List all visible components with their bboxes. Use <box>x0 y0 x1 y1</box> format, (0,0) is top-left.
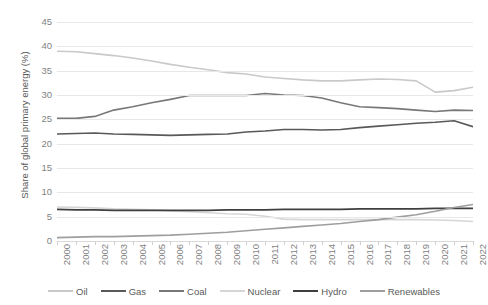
x-axis-tick <box>416 241 417 245</box>
x-axis-tick-label: 2000 <box>62 244 72 278</box>
gridline <box>57 144 473 145</box>
legend-label: Nuclear <box>248 286 281 297</box>
gridline <box>57 168 473 169</box>
gridline <box>57 71 473 72</box>
x-axis-tick <box>378 241 379 245</box>
x-axis-tick <box>227 241 228 245</box>
x-axis-tick-label: 2021 <box>459 244 469 278</box>
x-axis-tick-label: 2001 <box>81 244 91 278</box>
x-axis-tick-label: 2004 <box>138 244 148 278</box>
legend-label: Gas <box>129 286 146 297</box>
gridline <box>57 217 473 218</box>
legend-swatch-icon <box>293 290 318 292</box>
y-axis-tick-label: 45 <box>26 17 52 27</box>
x-axis-tick-label: 2009 <box>232 244 242 278</box>
y-axis-tick-label: 40 <box>26 41 52 51</box>
x-axis-tick <box>322 241 323 245</box>
legend-item-gas[interactable]: Gas <box>101 286 146 297</box>
x-axis-tick <box>189 241 190 245</box>
x-axis-tick <box>152 241 153 245</box>
y-axis-tick-label: 30 <box>26 90 52 100</box>
y-axis-tick-label: 15 <box>26 163 52 173</box>
y-axis-tick-label: 10 <box>26 187 52 197</box>
legend-item-oil[interactable]: Oil <box>48 286 88 297</box>
x-axis-tick <box>114 241 115 245</box>
x-axis-tick-label: 2008 <box>213 244 223 278</box>
x-axis-tick-label: 2013 <box>308 244 318 278</box>
legend-item-nuclear[interactable]: Nuclear <box>220 286 281 297</box>
legend-swatch-icon <box>48 290 73 292</box>
x-axis-tick-label: 2011 <box>270 244 280 278</box>
x-axis-tick <box>133 241 134 245</box>
x-axis-tick-label: 2007 <box>194 244 204 278</box>
legend-swatch-icon <box>220 290 245 292</box>
x-axis-tick <box>76 241 77 245</box>
x-axis-tick <box>303 241 304 245</box>
x-axis-tick <box>95 241 96 245</box>
x-axis-tick <box>435 241 436 245</box>
x-axis-tick-label: 2002 <box>100 244 110 278</box>
x-axis-tick <box>341 241 342 245</box>
legend-swatch-icon <box>360 290 385 292</box>
x-axis-tick-label: 2022 <box>478 244 488 278</box>
y-axis-tick-labels: 051015202530354045 <box>22 22 52 241</box>
x-axis-tick <box>397 241 398 245</box>
legend-label: Coal <box>187 286 207 297</box>
x-axis-tick-label: 2006 <box>175 244 185 278</box>
x-axis-tick-label: 2005 <box>157 244 167 278</box>
x-axis-tick-label: 2003 <box>119 244 129 278</box>
x-axis-tick <box>265 241 266 245</box>
legend-swatch-icon <box>101 290 126 292</box>
x-axis-tick <box>284 241 285 245</box>
plot-area <box>57 22 473 241</box>
x-axis-tick-label: 2016 <box>365 244 375 278</box>
y-axis-tick-label: 20 <box>26 139 52 149</box>
x-axis-tick <box>208 241 209 245</box>
legend-item-renewables[interactable]: Renewables <box>360 286 440 297</box>
x-axis-tick-labels: 2000200120022003200420052006200720082009… <box>57 246 473 280</box>
x-axis-tick-label: 2019 <box>421 244 431 278</box>
legend-label: Renewables <box>388 286 440 297</box>
y-axis-tick-label: 35 <box>26 66 52 76</box>
x-axis-tick <box>170 241 171 245</box>
x-axis-tick-label: 2014 <box>327 244 337 278</box>
series-line-coal <box>57 94 473 119</box>
x-axis-tick <box>246 241 247 245</box>
x-axis-tick-label: 2020 <box>440 244 450 278</box>
series-lines <box>57 22 473 241</box>
y-axis-tick-label: 0 <box>26 236 52 246</box>
x-axis-tick-label: 2018 <box>402 244 412 278</box>
gridline <box>57 46 473 47</box>
x-axis-tick-label: 2015 <box>346 244 356 278</box>
legend-label: Hydro <box>321 286 346 297</box>
legend-label: Oil <box>76 286 88 297</box>
x-axis-tick-label: 2017 <box>383 244 393 278</box>
gridline <box>57 119 473 120</box>
x-axis-tick <box>454 241 455 245</box>
x-axis-tick-label: 2012 <box>289 244 299 278</box>
x-axis-tick <box>360 241 361 245</box>
gridline <box>57 22 473 23</box>
gridline <box>57 95 473 96</box>
x-axis-tick-label: 2010 <box>251 244 261 278</box>
legend-item-hydro[interactable]: Hydro <box>293 286 346 297</box>
y-axis-tick-label: 5 <box>26 212 52 222</box>
x-axis-tick <box>473 241 474 245</box>
chart-legend: OilGasCoalNuclearHydroRenewables <box>22 283 466 299</box>
x-axis-tick <box>57 241 58 245</box>
gridline <box>57 192 473 193</box>
series-line-gas <box>57 121 473 136</box>
y-axis-tick-label: 25 <box>26 114 52 124</box>
legend-item-coal[interactable]: Coal <box>159 286 207 297</box>
legend-swatch-icon <box>159 290 184 292</box>
